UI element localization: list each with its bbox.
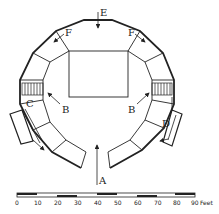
label-a: A (98, 175, 107, 186)
inner-ring (43, 51, 86, 152)
stairs-left (22, 83, 43, 95)
label-b-right: B (128, 104, 135, 115)
label-b-left: B (62, 104, 69, 115)
stairs-right (152, 83, 172, 95)
tick-10: 10 (34, 199, 42, 206)
inner-ring-right (108, 51, 152, 152)
tick-60: 60 (134, 199, 142, 206)
tick-20: 20 (54, 199, 62, 206)
label-d: D (162, 118, 170, 129)
arrow-b-right (137, 93, 149, 104)
label-c: C (26, 98, 34, 109)
tick-50: 50 (114, 199, 122, 206)
label-f-right: F (128, 27, 135, 38)
tick-70: 70 (154, 199, 162, 206)
plan-diagram: E F F B B C D A 0 10 20 30 40 50 60 70 8… (0, 0, 219, 214)
tick-80: 80 (173, 199, 181, 206)
stage-rectangle (69, 51, 128, 97)
tick-40: 40 (94, 199, 102, 206)
tick-90: 90 (191, 199, 199, 206)
tick-0: 0 (15, 199, 19, 206)
label-e: E (100, 7, 107, 18)
label-f-left: F (65, 27, 72, 38)
scale-unit: Feet (200, 199, 214, 206)
scale-bar: 0 10 20 30 40 50 60 70 80 90 Feet (15, 193, 214, 206)
tick-30: 30 (74, 199, 82, 206)
arrow-b-left (48, 93, 60, 104)
